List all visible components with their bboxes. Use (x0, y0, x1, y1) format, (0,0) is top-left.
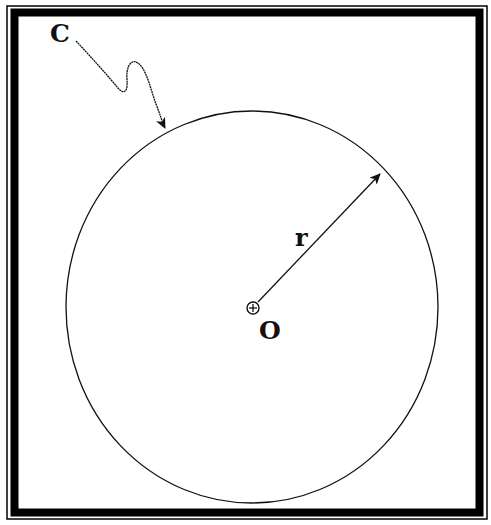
center-marker-icon (247, 302, 259, 314)
circle-diagram: C r O (0, 0, 491, 525)
frame-thick-border (15, 13, 480, 513)
label-center-o: O (259, 316, 281, 345)
frame-outer-line (7, 6, 487, 519)
label-curve-c: C (50, 19, 70, 48)
label-radius-r: r (295, 223, 308, 252)
radius-arrow (258, 174, 380, 302)
curve-pointer-arrow (76, 41, 165, 128)
diagram-frame (7, 6, 487, 519)
